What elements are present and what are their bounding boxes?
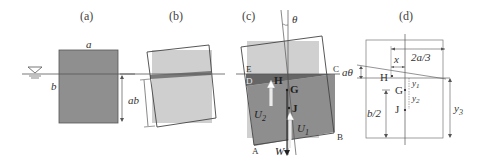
- panel-c: (c) θ E C D A B H G J U2: [236, 9, 343, 157]
- dim-b2-label: b/2: [367, 107, 382, 119]
- point-D-label: D: [246, 76, 253, 86]
- point-G-label: G: [395, 84, 403, 96]
- point-C-label: C: [333, 64, 339, 74]
- block-outline: [366, 40, 443, 138]
- theta-label: θ: [292, 13, 298, 25]
- point-B-label: B: [337, 132, 343, 142]
- dim-y1-label: y1: [411, 78, 420, 90]
- panel-d-label: (d): [399, 9, 413, 23]
- width-label-a: a: [86, 38, 92, 50]
- W-label: W: [275, 145, 285, 157]
- floating-block: [59, 50, 118, 123]
- panel-b: (b) ab: [120, 9, 225, 127]
- point-E-label: E: [246, 64, 252, 74]
- point-H-label: H: [380, 71, 388, 83]
- point-H-label: H: [274, 74, 283, 86]
- upright-block-shadow: [152, 50, 212, 123]
- dim-x-label: x: [393, 53, 399, 65]
- water-level-icon: [28, 67, 42, 78]
- figure-diagram: (a) a b (b) ab (c): [0, 0, 483, 162]
- dim-atheta-label: aθ: [342, 66, 354, 78]
- panel-d: (d) 2a/3 x aθ H G J y1 y2: [342, 9, 463, 145]
- ab-label: ab: [128, 94, 140, 106]
- panel-c-label: (c): [242, 9, 255, 23]
- panel-a: (a) a b: [22, 9, 135, 123]
- point-A-label: A: [252, 146, 259, 156]
- dim-y3-label: y3: [453, 102, 463, 117]
- height-label-b: b: [51, 80, 57, 92]
- dim-y2-label: y2: [411, 93, 420, 105]
- panel-a-label: (a): [80, 9, 93, 23]
- panel-b-label: (b): [169, 9, 183, 23]
- point-J-label: J: [292, 102, 298, 114]
- point-G-label: G: [290, 83, 299, 95]
- ab-dimension-line: [144, 80, 148, 126]
- dim-2a3-label: 2a/3: [411, 51, 431, 63]
- point-J-label: J: [395, 103, 400, 115]
